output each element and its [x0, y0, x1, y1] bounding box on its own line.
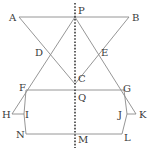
label-L: L [124, 132, 131, 143]
label-B: B [132, 12, 139, 23]
label-I: I [25, 109, 29, 120]
label-Q: Q [78, 92, 86, 103]
label-G: G [123, 83, 131, 94]
label-C: C [78, 73, 86, 84]
label-F: F [19, 82, 26, 93]
line-PH [12, 17, 75, 114]
curve-GJL [122, 90, 127, 134]
label-P: P [78, 5, 85, 16]
label-E: E [101, 47, 108, 58]
label-N: N [16, 129, 25, 140]
label-A: A [8, 12, 17, 23]
geometry-diagram: A P B D E C F G Q H I J K N M L [0, 0, 152, 149]
label-M: M [78, 134, 88, 145]
label-J: J [117, 109, 122, 120]
label-K: K [139, 109, 147, 120]
label-D: D [35, 47, 43, 58]
line-AC [19, 17, 75, 84]
label-H: H [2, 109, 11, 120]
